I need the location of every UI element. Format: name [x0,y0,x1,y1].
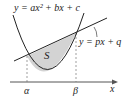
beta-label: β [73,86,78,96]
region-s-label: S [44,50,50,61]
parabola-equation-label: y = ax² + bx + c [14,3,80,13]
line-equation-label: y = px + q [79,37,121,47]
x-axis-label: x [110,84,114,94]
region-s-fill [27,33,76,72]
alpha-label: α [24,86,29,96]
diagram-canvas [0,0,122,104]
